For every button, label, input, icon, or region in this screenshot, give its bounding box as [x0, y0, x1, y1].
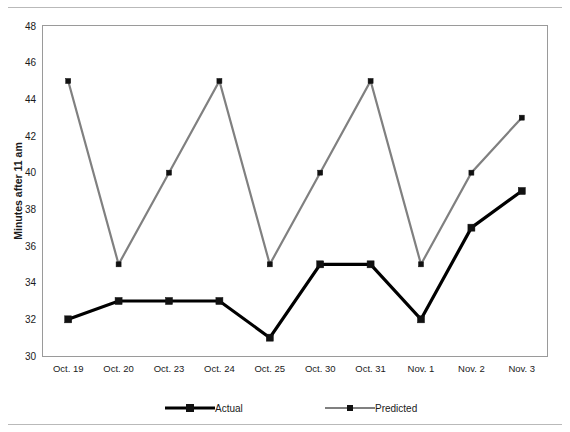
y-axis-tick-labels: 30323436384042444648 [25, 21, 37, 362]
series-marker [419, 262, 424, 267]
x-tick-label: Oct. 31 [355, 363, 386, 374]
chart-figure: 30323436384042444648 Oct. 19Oct. 20Oct. … [0, 0, 570, 432]
series-marker [115, 298, 122, 305]
series-marker [66, 79, 71, 84]
y-tick-label: 44 [25, 94, 37, 105]
x-axis-tick-labels: Oct. 19Oct. 20Oct. 23Oct. 24Oct. 25Oct. … [53, 363, 535, 374]
x-tick-label: Nov. 3 [508, 363, 535, 374]
x-tick-label: Nov. 1 [408, 363, 435, 374]
series-marker [267, 262, 272, 267]
legend-entry-label: Predicted [375, 403, 417, 414]
series-marker [418, 316, 425, 323]
y-tick-label: 48 [25, 21, 37, 32]
y-tick-label: 36 [25, 241, 37, 252]
series-marker [167, 170, 172, 175]
y-tick-label: 32 [25, 314, 37, 325]
legend-entry-label: Actual [215, 403, 243, 414]
x-tick-label: Oct. 24 [204, 363, 235, 374]
x-tick-label: Oct. 20 [103, 363, 134, 374]
series-marker [65, 316, 72, 323]
legend-marker-swatch [347, 405, 353, 411]
series-marker [166, 298, 173, 305]
series-marker [468, 224, 475, 231]
series-marker [217, 79, 222, 84]
legend-marker-swatch [186, 404, 194, 412]
y-axis-title: Minutes after 11 am [12, 142, 24, 239]
x-tick-label: Oct. 19 [53, 363, 84, 374]
series-marker [367, 261, 374, 268]
y-tick-label: 30 [25, 351, 37, 362]
x-tick-label: Nov. 2 [458, 363, 485, 374]
line-chart: 30323436384042444648 Oct. 19Oct. 20Oct. … [0, 0, 570, 432]
series-marker [216, 298, 223, 305]
series-marker [518, 188, 525, 195]
series-marker [469, 170, 474, 175]
x-tick-label: Oct. 30 [305, 363, 336, 374]
series-marker [116, 262, 121, 267]
series-marker [266, 334, 273, 341]
series-marker [519, 115, 524, 120]
series-marker [368, 79, 373, 84]
y-tick-label: 40 [25, 167, 37, 178]
y-tick-label: 34 [25, 277, 37, 288]
series-marker [318, 170, 323, 175]
x-tick-label: Oct. 25 [254, 363, 285, 374]
y-tick-label: 42 [25, 131, 37, 142]
x-tick-label: Oct. 23 [154, 363, 185, 374]
series-marker [317, 261, 324, 268]
y-tick-label: 46 [25, 57, 37, 68]
plot-area-frame [43, 26, 548, 357]
y-tick-label: 38 [25, 204, 37, 215]
chart-legend: ActualPredicted [165, 403, 417, 414]
